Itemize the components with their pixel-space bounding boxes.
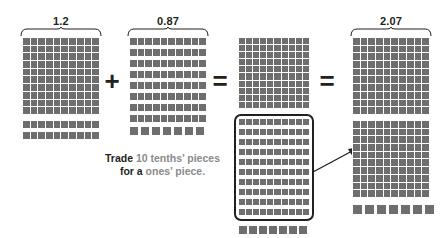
operand-2-unit-2 xyxy=(141,127,149,135)
intermediate-unit-7 xyxy=(299,226,307,234)
operand-2-unit-5 xyxy=(174,127,182,135)
operand-2-brace xyxy=(127,27,209,37)
trade-caption-line-2: for a ones’ piece. xyxy=(90,165,235,178)
result-unit-2 xyxy=(365,205,374,214)
operand-2-unit-6 xyxy=(185,127,193,135)
operand-1-flat-1 xyxy=(22,37,100,115)
operand-1-rod-1 xyxy=(22,120,100,129)
intermediate-rod-8 xyxy=(238,188,310,196)
operand-2-unit-3 xyxy=(152,127,160,135)
intermediate-rod-4 xyxy=(238,148,310,156)
trade-caption: Trade 10 tenths’ pieces for a ones’ piec… xyxy=(90,152,235,178)
intermediate-unit-6 xyxy=(289,226,297,234)
intermediate-rod-3 xyxy=(238,138,310,146)
operand-2-rod-5 xyxy=(129,81,207,90)
result-flat-2 xyxy=(352,120,430,198)
base-ten-block-addition-diagram: 1.2 + 0.87 = xyxy=(0,0,443,238)
intermediate-unit-2 xyxy=(249,226,257,234)
intermediate-unit-5 xyxy=(279,226,287,234)
trade-caption-line-2-strong: for a xyxy=(120,165,143,177)
intermediate-rod-10 xyxy=(238,208,310,216)
operand-2-label: 0.87 xyxy=(127,15,209,27)
result-brace xyxy=(350,27,432,37)
result-unit-3 xyxy=(377,205,386,214)
intermediate-rod-5 xyxy=(238,158,310,166)
result-unit-5 xyxy=(401,205,410,214)
intermediate-rod-1 xyxy=(238,118,310,126)
trade-caption-line-1-rest: 10 tenths’ pieces xyxy=(133,152,220,164)
operand-2-unit-1 xyxy=(130,127,138,135)
operand-2-rod-1 xyxy=(129,37,207,46)
operand-2-rod-7 xyxy=(129,103,207,112)
operand-2-rod-3 xyxy=(129,59,207,68)
result-unit-1 xyxy=(353,205,362,214)
intermediate-unit-4 xyxy=(269,226,277,234)
result-unit-6 xyxy=(413,205,422,214)
operand-2-rod-8 xyxy=(129,114,207,123)
trade-caption-line-2-rest: ones’ piece. xyxy=(143,165,205,177)
result-label: 2.07 xyxy=(350,15,432,27)
operand-1-rod-2 xyxy=(22,131,100,140)
operand-2-rod-6 xyxy=(129,92,207,101)
equals-operator-second: = xyxy=(316,68,338,94)
intermediate-rod-6 xyxy=(238,168,310,176)
intermediate-unit-3 xyxy=(259,226,267,234)
plus-operator: + xyxy=(101,68,123,94)
operand-2-rod-4 xyxy=(129,70,207,79)
equals-operator-first: = xyxy=(209,68,231,94)
intermediate-unit-1 xyxy=(239,226,247,234)
intermediate-rod-9 xyxy=(238,198,310,206)
result-unit-7 xyxy=(425,205,434,214)
intermediate-rod-2 xyxy=(238,128,310,136)
result-unit-4 xyxy=(389,205,398,214)
intermediate-flat-1 xyxy=(238,37,310,109)
trade-caption-line-1-strong: Trade xyxy=(105,152,133,164)
operand-2-unit-7 xyxy=(196,127,204,135)
operand-2-unit-4 xyxy=(163,127,171,135)
operand-1-label: 1.2 xyxy=(20,15,102,27)
operand-2-rod-2 xyxy=(129,48,207,57)
trade-caption-line-1: Trade 10 tenths’ pieces xyxy=(90,152,235,165)
operand-1-brace xyxy=(20,27,102,37)
result-flat-1 xyxy=(352,37,430,115)
intermediate-rod-7 xyxy=(238,178,310,186)
